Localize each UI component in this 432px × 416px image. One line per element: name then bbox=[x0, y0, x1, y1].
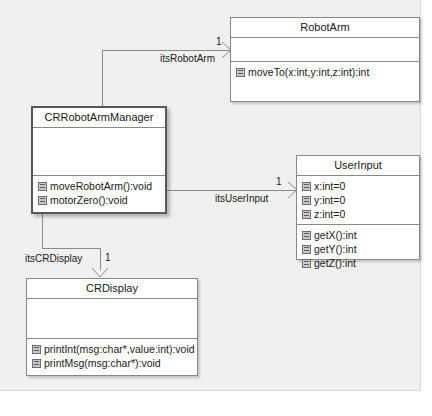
operation-label: getY():int bbox=[314, 243, 357, 256]
attributes-compartment-cr-display bbox=[27, 299, 197, 339]
operation-icon bbox=[236, 68, 245, 77]
operation-label: printMsg(msg:char*):void bbox=[44, 357, 161, 370]
association-label-its-robot-arm: itsRobotArm bbox=[160, 53, 215, 64]
attribute-row[interactable]: y:int=0 bbox=[302, 193, 416, 207]
attribute-label: x:int=0 bbox=[314, 180, 345, 193]
operation-icon bbox=[302, 245, 311, 254]
operations-compartment-cr-robot-arm-manager: moveRobotArm():void motorZero():void bbox=[33, 176, 165, 210]
class-name-user-input: UserInput bbox=[297, 156, 419, 176]
operation-row[interactable]: printMsg(msg:char*):void bbox=[32, 356, 194, 370]
operation-row[interactable]: getX():int bbox=[302, 228, 416, 242]
attribute-label: z:int=0 bbox=[314, 208, 345, 221]
operation-row[interactable]: moveRobotArm():void bbox=[38, 179, 162, 193]
attribute-icon bbox=[302, 210, 311, 219]
connector-its-cr-display-horizontal bbox=[42, 248, 100, 249]
association-label-its-user-input: itsUserInput bbox=[215, 193, 268, 204]
operation-label: moveTo(x:int,y:int,z:int):int bbox=[248, 66, 369, 79]
operation-icon bbox=[32, 345, 41, 354]
attributes-compartment-user-input: x:int=0 y:int=0 z:int=0 bbox=[297, 176, 419, 225]
operations-compartment-cr-display: printInt(msg:char*,value:int):void print… bbox=[27, 339, 197, 373]
operation-row[interactable]: getY():int bbox=[302, 242, 416, 256]
class-box-cr-robot-arm-manager[interactable]: CRRobotArmManager moveRobotArm():void mo… bbox=[31, 106, 167, 214]
operation-row[interactable]: motorZero():void bbox=[38, 193, 162, 207]
operation-label: getX():int bbox=[314, 229, 357, 242]
operation-row[interactable]: moveTo(x:int,y:int,z:int):int bbox=[236, 65, 416, 79]
attributes-compartment-cr-robot-arm-manager bbox=[33, 128, 165, 176]
attribute-row[interactable]: z:int=0 bbox=[302, 207, 416, 221]
attribute-icon bbox=[302, 182, 311, 191]
operation-icon bbox=[38, 196, 47, 205]
operation-icon bbox=[38, 182, 47, 191]
attribute-icon bbox=[302, 196, 311, 205]
multiplicity-its-cr-display: 1 bbox=[105, 252, 111, 263]
association-label-its-cr-display: itsCRDisplay bbox=[25, 253, 82, 264]
class-box-cr-display[interactable]: CRDisplay printInt(msg:char*,value:int):… bbox=[26, 278, 198, 376]
multiplicity-its-user-input: 1 bbox=[276, 176, 282, 187]
attribute-label: y:int=0 bbox=[314, 194, 345, 207]
operation-label: moveRobotArm():void bbox=[50, 180, 152, 193]
multiplicity-its-robot-arm: 1 bbox=[216, 36, 222, 47]
operation-label: printInt(msg:char*,value:int):void bbox=[44, 343, 195, 356]
operation-icon bbox=[302, 259, 311, 268]
class-name-cr-display: CRDisplay bbox=[27, 279, 197, 299]
attributes-compartment-robot-arm bbox=[231, 38, 419, 62]
operation-row[interactable]: printInt(msg:char*,value:int):void bbox=[32, 342, 194, 356]
operation-label: motorZero():void bbox=[50, 194, 128, 207]
operations-compartment-user-input: getX():int getY():int getZ():int bbox=[297, 225, 419, 273]
diagram-canvas: itsRobotArm 1 itsUserInput 1 itsCRDispla… bbox=[0, 0, 432, 416]
operation-label: getZ():int bbox=[314, 257, 356, 270]
connector-its-robot-arm-vertical bbox=[102, 50, 103, 106]
class-name-cr-robot-arm-manager: CRRobotArmManager bbox=[33, 108, 165, 128]
connector-its-robot-arm-horizontal bbox=[102, 50, 230, 51]
attribute-row[interactable]: x:int=0 bbox=[302, 179, 416, 193]
connector-its-cr-display-vertical-left bbox=[42, 214, 43, 248]
connector-its-user-input-horizontal bbox=[167, 190, 296, 191]
class-name-robot-arm: RobotArm bbox=[231, 18, 419, 38]
operations-compartment-robot-arm: moveTo(x:int,y:int,z:int):int bbox=[231, 62, 419, 82]
class-box-user-input[interactable]: UserInput x:int=0 y:int=0 z:int=0 getX()… bbox=[296, 155, 420, 260]
class-box-robot-arm[interactable]: RobotArm moveTo(x:int,y:int,z:int):int bbox=[230, 17, 420, 102]
operation-icon bbox=[302, 231, 311, 240]
operation-icon bbox=[32, 359, 41, 368]
operation-row[interactable]: getZ():int bbox=[302, 256, 416, 270]
